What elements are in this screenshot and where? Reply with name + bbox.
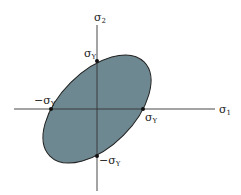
sigma1-axis-label: σ1 <box>219 104 231 117</box>
top-intercept-label: σY <box>84 48 96 61</box>
bottom-intercept-label: −σY <box>99 155 120 168</box>
right-intercept-label: σY <box>145 112 157 125</box>
left-intercept-label: −σY <box>34 95 55 108</box>
sigma2-axis-label: σ2 <box>94 12 106 25</box>
